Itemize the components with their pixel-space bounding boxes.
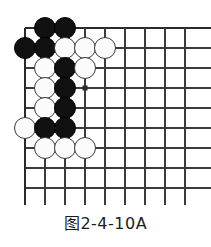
black-stone[interactable] xyxy=(34,17,56,39)
black-stone[interactable] xyxy=(54,57,76,79)
go-board[interactable] xyxy=(0,0,211,205)
figure-caption: 图2-4-10A xyxy=(0,210,211,234)
white-stone[interactable] xyxy=(34,77,56,99)
white-stone[interactable] xyxy=(34,137,56,159)
go-problem-figure: 图2-4-10A xyxy=(0,0,211,247)
white-stone[interactable] xyxy=(54,37,76,59)
black-stone[interactable] xyxy=(34,37,56,59)
stone-layer xyxy=(0,0,211,205)
white-stone[interactable] xyxy=(94,37,116,59)
black-stone[interactable] xyxy=(54,97,76,119)
white-stone[interactable] xyxy=(74,37,96,59)
black-stone[interactable] xyxy=(54,17,76,39)
white-stone[interactable] xyxy=(74,57,96,79)
white-stone[interactable] xyxy=(74,137,96,159)
black-stone[interactable] xyxy=(14,37,36,59)
black-stone[interactable] xyxy=(54,117,76,139)
black-stone[interactable] xyxy=(54,77,76,99)
white-stone[interactable] xyxy=(14,117,36,139)
white-stone[interactable] xyxy=(54,137,76,159)
white-stone[interactable] xyxy=(34,97,56,119)
black-stone[interactable] xyxy=(34,117,56,139)
white-stone[interactable] xyxy=(34,57,56,79)
